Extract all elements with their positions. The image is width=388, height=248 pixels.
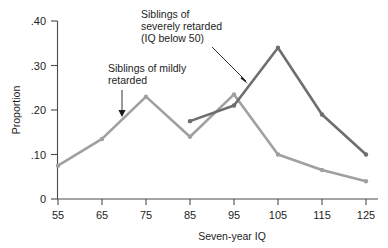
x-tick-label-115: 115 <box>313 209 331 221</box>
data-point <box>232 92 236 96</box>
annotation-severely-line-2: (IQ below 50) <box>141 32 204 44</box>
x-tick-label-65: 65 <box>96 209 108 221</box>
y-tick-label-4: .40 <box>31 15 46 27</box>
line-chart-canvas: 0 .10 .20 .30 .40 55 65 75 85 95 105 115… <box>0 0 388 248</box>
data-point <box>232 103 236 107</box>
series-1 <box>56 92 368 183</box>
series-line-2 <box>190 48 366 155</box>
x-tick-label-125: 125 <box>357 209 375 221</box>
x-axis-ticks <box>58 199 366 205</box>
x-tick-label-75: 75 <box>140 209 152 221</box>
x-tick-label-105: 105 <box>269 209 287 221</box>
annotation-mildly-line-1: retarded <box>108 74 147 86</box>
x-tick-label-85: 85 <box>184 209 196 221</box>
annotation-severely-line-0: Siblings of <box>141 8 190 20</box>
data-point <box>276 152 280 156</box>
data-series-layer <box>56 46 368 184</box>
data-point <box>100 137 104 141</box>
annotation-severely-leader <box>212 47 246 81</box>
data-point <box>188 119 192 123</box>
annotation-severely-line-1: severely retarded <box>141 20 222 32</box>
y-tick-label-0: 0 <box>40 193 46 205</box>
chart-figure: 0 .10 .20 .30 .40 55 65 75 85 95 105 115… <box>0 0 388 248</box>
x-tick-label-55: 55 <box>52 209 64 221</box>
annotation-mildly-line-0: Siblings of mildly <box>108 62 187 74</box>
data-point <box>276 46 280 50</box>
y-tick-label-3: .30 <box>31 60 46 72</box>
data-point <box>364 179 368 183</box>
x-axis-title: Seven-year IQ <box>198 230 266 242</box>
data-point <box>188 135 192 139</box>
y-tick-label-1: .10 <box>31 149 46 161</box>
data-point <box>56 163 60 167</box>
annotation-severely-arrowhead <box>241 77 249 85</box>
data-point <box>320 168 324 172</box>
data-point <box>320 112 324 116</box>
annotation-mildly-retarded: Siblings of mildly retarded <box>108 62 187 117</box>
y-axis-title: Proportion <box>10 86 22 135</box>
series-line-1 <box>58 94 366 181</box>
y-axis-ticks <box>51 21 58 199</box>
y-tick-label-2: .20 <box>31 104 46 116</box>
series-2 <box>188 46 368 157</box>
x-tick-label-95: 95 <box>228 209 240 221</box>
data-point <box>364 152 368 156</box>
data-point <box>144 94 148 98</box>
